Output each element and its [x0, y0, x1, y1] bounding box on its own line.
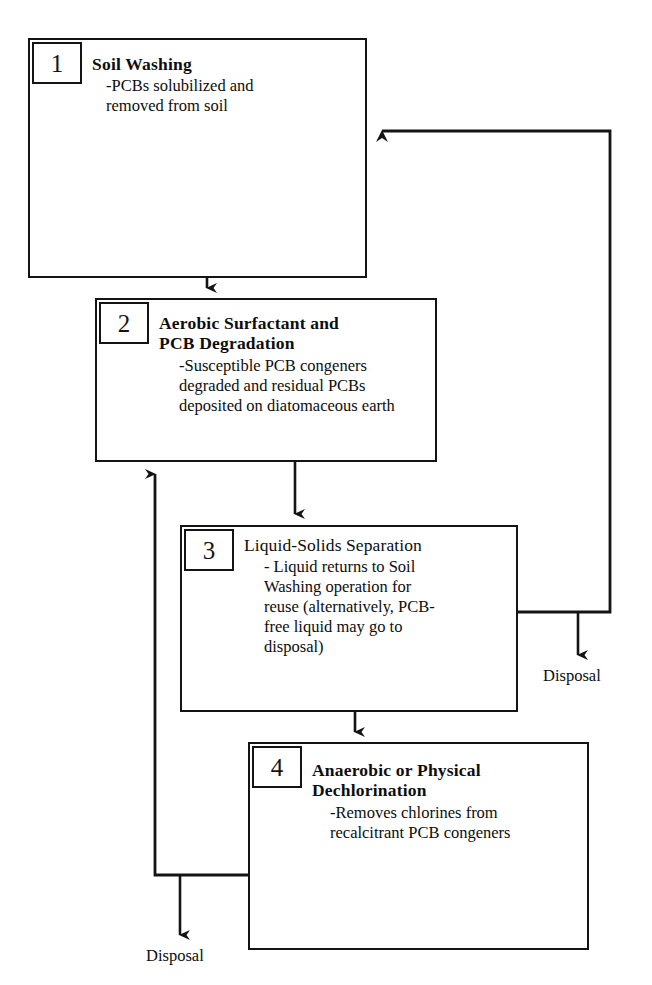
stage-content-2: Aerobic Surfactant and PCB Degradation -…: [159, 313, 431, 415]
stage-content-4: Anaerobic or Physical Dechlorination -Re…: [312, 760, 584, 843]
stage-number-2: 2: [118, 311, 131, 336]
stage-content-3: Liquid-Solids Separation - Liquid return…: [244, 535, 512, 656]
stage-title-1: Soil Washing: [92, 54, 357, 74]
stage-number-badge-2: 2: [99, 302, 149, 344]
stage-number-3: 3: [203, 538, 216, 563]
disposal-label-bottom: Disposal: [146, 948, 204, 965]
stage-title-3: Liquid-Solids Separation: [244, 535, 512, 555]
stage-number-4: 4: [271, 755, 284, 780]
stage-number-badge-1: 1: [32, 42, 82, 84]
stage-number-badge-4: 4: [252, 746, 302, 788]
stage-number-badge-3: 3: [184, 529, 234, 571]
disposal-label-right: Disposal: [543, 668, 601, 685]
stage-title-2: Aerobic Surfactant and PCB Degradation: [159, 313, 431, 354]
stage-description-4: -Removes chlorines from recalcitrant PCB…: [330, 803, 584, 843]
process-flow-diagram: 1 Soil Washing -PCBs solubilized and rem…: [0, 0, 652, 985]
stage-description-2: -Susceptible PCB congeners degraded and …: [179, 356, 431, 415]
stage-content-1: Soil Washing -PCBs solubilized and remov…: [92, 54, 357, 116]
stage-number-1: 1: [51, 51, 64, 76]
stage-description-3: - Liquid returns to Soil Washing operati…: [264, 557, 512, 656]
stage-description-1: -PCBs solubilized and removed from soil: [106, 76, 357, 116]
stage-title-4: Anaerobic or Physical Dechlorination: [312, 760, 584, 801]
